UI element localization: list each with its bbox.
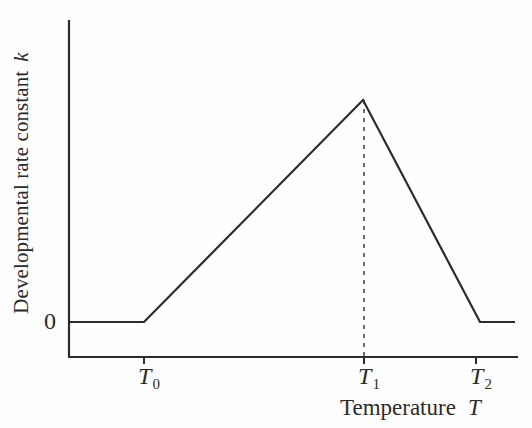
rate-curve bbox=[68, 100, 515, 322]
chart-plot-area bbox=[0, 0, 532, 428]
figure-container: Developmental rate constantk 0 T0 T1 T2 … bbox=[0, 0, 532, 428]
